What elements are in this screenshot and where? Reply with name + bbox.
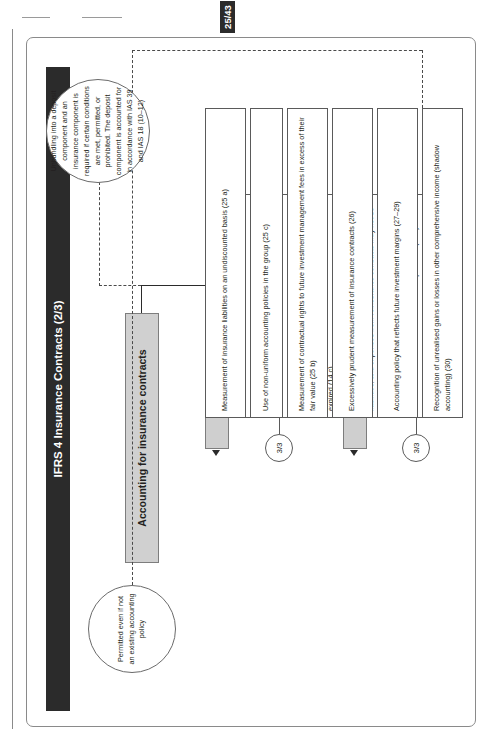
dashed-connector-permitted-vertical <box>132 50 422 51</box>
dashed-connector-permitted-into-box <box>422 50 423 108</box>
list-item: Use of non-uniform accounting policies i… <box>250 108 283 418</box>
arrowhead-continuation <box>350 450 358 456</box>
list-item: Recognition of unrealised gains or losse… <box>422 108 463 418</box>
badge-connector-fundamental-principles <box>279 418 280 434</box>
list-item-text: Recognition of unrealised gains or losse… <box>432 115 453 411</box>
badge-connector-continuation <box>416 418 417 434</box>
list-item: Accounting policy that reflects future i… <box>377 108 418 418</box>
badge-continuation: 3/3 <box>402 434 430 462</box>
page-number-label: 25/43 <box>220 1 235 33</box>
slide-page: 25/43 IFRS 4 Insurance Contracts (2/3) A… <box>0 0 492 743</box>
connector-root-out <box>141 285 142 313</box>
page-top-rule <box>12 29 13 729</box>
arrowhead-fundamental-principles <box>212 450 220 456</box>
dashed-connector-unbundling <box>99 182 100 286</box>
dashed-connector-unbundling-vertical <box>99 285 141 286</box>
note-circle-permitted: Permitted even if not an existing accoun… <box>88 585 176 673</box>
list-item-text: Measurement of insurance liabilities on … <box>220 189 231 411</box>
list-item-text: Use of non-uniform accounting policies i… <box>261 224 272 411</box>
list-item-text: Accounting policy that reflects future i… <box>392 201 403 411</box>
list-item-text: Measurement of contractual rights to fut… <box>297 115 318 411</box>
root-node-accounting-for-insurance-contracts: Accounting for insurance contracts <box>125 313 159 563</box>
list-item: Excessively prudent measurement of insur… <box>332 108 373 418</box>
badge-fundamental-principles: 3/3 <box>265 434 293 462</box>
page-number: 25/43 <box>12 4 442 30</box>
list-item: Measurement of insurance liabilities on … <box>205 108 246 418</box>
note-circle-unbundling: Unbundling into a deposit component and … <box>46 79 150 183</box>
list-item: Measurement of contractual rights to fut… <box>287 108 328 418</box>
list-item-text: Excessively prudent measurement of insur… <box>347 211 358 411</box>
